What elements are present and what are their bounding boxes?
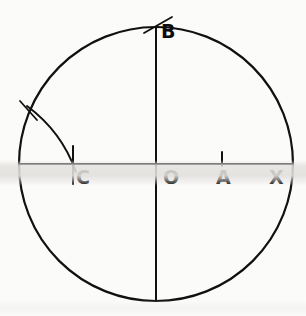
point-label-o: O	[163, 168, 179, 187]
tick-arc-upper-left-icon	[20, 101, 37, 120]
point-label-a: A	[216, 168, 231, 187]
point-label-x: X	[269, 168, 284, 187]
diagram-canvas	[0, 0, 306, 316]
point-label-c: C	[76, 168, 90, 187]
point-label-b: B	[161, 22, 175, 41]
geometry-diagram: B C O A X	[0, 0, 306, 316]
